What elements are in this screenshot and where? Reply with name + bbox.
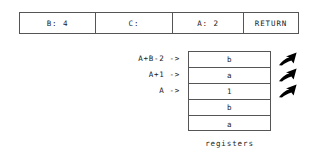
arrow-column (274, 51, 302, 99)
register-label-a-plus-1: A+1 -> (96, 67, 184, 83)
arrow-slot (274, 83, 302, 99)
frame-cell-return: RETURN (244, 13, 298, 33)
arrow-slot (274, 51, 302, 67)
register-row: 1 (189, 84, 270, 100)
register-label-a-plus-b-minus-2: A+B-2 -> (96, 51, 184, 67)
register-row: a (189, 116, 270, 132)
register-row: b (189, 52, 270, 68)
arrow-up-right-icon (276, 68, 298, 82)
register-box: b a 1 b a (188, 51, 271, 131)
frame-cell-c: C: (96, 13, 173, 33)
frame-cell-b: B: 4 (20, 13, 96, 33)
register-address-labels: A+B-2 -> A+1 -> A -> (96, 51, 184, 131)
diagram-canvas: B: 4 C: A: 2 RETURN A+B-2 -> A+1 -> A ->… (0, 0, 312, 164)
register-label-a: A -> (96, 83, 184, 99)
register-row: a (189, 68, 270, 84)
arrow-up-right-icon (276, 84, 298, 98)
frame-cell-a: A: 2 (173, 13, 244, 33)
stack-frame-table: B: 4 C: A: 2 RETURN (19, 12, 299, 34)
register-row: b (189, 100, 270, 116)
arrow-slot (274, 67, 302, 83)
registers-caption: registers (188, 139, 271, 148)
arrow-up-right-icon (276, 52, 298, 66)
